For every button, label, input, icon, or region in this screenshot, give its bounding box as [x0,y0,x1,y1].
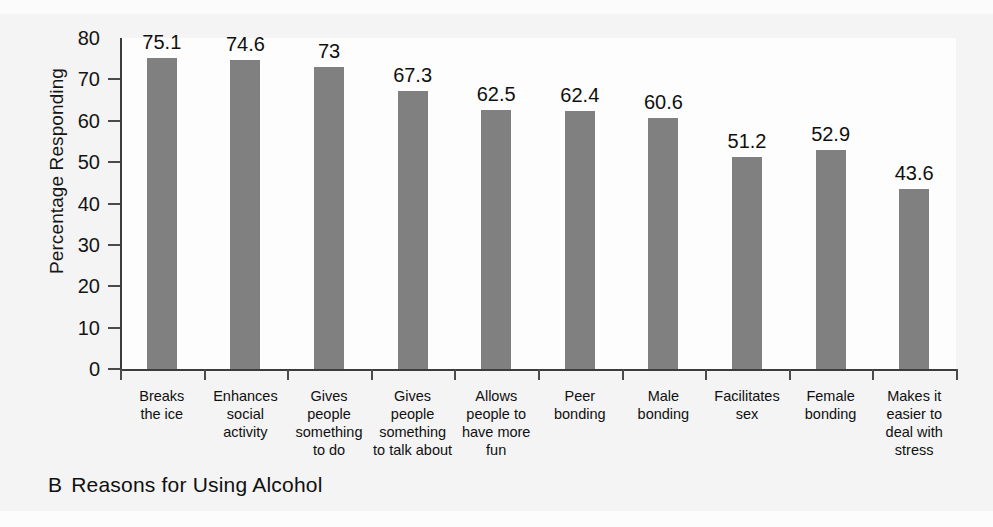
bar [816,150,846,369]
y-axis-tick-label: 60 [56,111,100,131]
bar [481,110,511,369]
bar [314,67,344,369]
y-axis-tick-label: 40 [56,194,100,214]
bar [648,118,678,369]
category-label-line: deal with [859,423,969,441]
bar-value-label: 60.6 [603,92,723,112]
y-axis-tick-label: 0 [56,359,100,379]
x-axis-tick [622,369,624,380]
category-label-line: Makes it [859,387,969,405]
y-axis-tick [108,161,120,163]
bar-value-label: 73 [269,41,389,61]
y-axis-tick-label: 50 [56,152,100,172]
y-axis-tick-label: 20 [56,276,100,296]
x-axis-tick [705,369,707,380]
x-axis-tick [120,369,122,380]
x-axis-tick [789,369,791,380]
bar [732,157,762,369]
bar-value-label: 67.3 [353,65,473,85]
bar [899,189,929,369]
y-axis-tick [108,78,120,80]
caption-text: Reasons for Using Alcohol [71,473,322,496]
y-axis-tick-label: 10 [56,318,100,338]
y-axis-tick [108,203,120,205]
bar [565,111,595,369]
y-axis-tick [108,120,120,122]
x-axis-tick [956,369,958,380]
y-axis-tick [108,244,120,246]
category-label-line: stress [859,441,969,459]
bar [230,60,260,369]
x-axis-tick [371,369,373,380]
x-axis-tick [287,369,289,380]
y-axis-tick [108,285,120,287]
y-axis-tick [108,368,120,370]
x-axis-tick [204,369,206,380]
paper-tint-bottom [0,511,993,527]
figure-caption: BReasons for Using Alcohol [48,473,323,497]
paper-tint-top [0,0,993,14]
y-axis-tick-label: 70 [56,69,100,89]
y-axis-tick [108,327,120,329]
category-label-line: easier to [859,405,969,423]
bar-value-label: 52.9 [771,124,891,144]
bar [398,91,428,369]
y-axis-tick-label: 30 [56,235,100,255]
category-label-line: fun [441,441,551,459]
x-axis-category-label: Makes iteasier todeal withstress [859,387,969,459]
x-axis-tick [454,369,456,380]
x-axis-tick [538,369,540,380]
bar [147,58,177,369]
panel-letter: B [48,473,62,496]
x-axis-tick [872,369,874,380]
y-axis-line [120,38,122,369]
figure-panel-b: Percentage Responding 01020304050607080 … [0,0,993,527]
category-label-line: have more [441,423,551,441]
y-axis-tick-label: 80 [56,28,100,48]
bar-value-label: 43.6 [854,163,974,183]
